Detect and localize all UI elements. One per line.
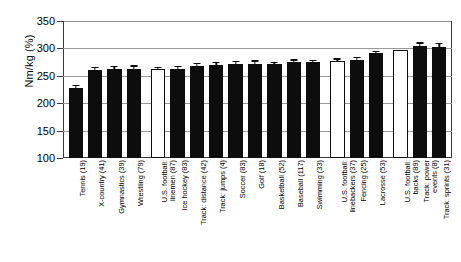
bar — [369, 53, 383, 158]
error-bar-cap — [111, 66, 118, 67]
bar-column — [267, 21, 281, 158]
y-axis-tick-label: 300 — [37, 42, 55, 54]
x-axis-tick-label-line: U.S. football: — [340, 160, 349, 202]
x-axis-tick-label: Tennis (19) — [79, 160, 87, 256]
bar-series — [63, 21, 452, 158]
y-axis-tick-label: 150 — [37, 125, 55, 137]
error-bar-cap — [213, 62, 220, 63]
bar — [330, 61, 344, 158]
y-axis-tick-label: 250 — [37, 70, 55, 82]
x-axis-tick-label: Basketball (52) — [278, 160, 286, 256]
x-axis-tick-label: Track: jumps (4) — [219, 160, 227, 256]
bar-column — [248, 21, 262, 158]
x-axis-tick-label: Track: powerevents (8) — [423, 160, 440, 256]
bar-column — [228, 21, 242, 158]
bar — [127, 69, 141, 158]
bar — [107, 69, 121, 158]
bar-column — [127, 21, 141, 158]
bar-column — [306, 21, 320, 158]
x-axis-tick-label-line: Track: distance (42) — [199, 160, 208, 225]
x-axis-tick-label-line: Track: sprints (31) — [442, 160, 451, 219]
x-axis-tick-label: Track: distance (42) — [200, 160, 208, 256]
bar-column — [190, 21, 204, 158]
x-axis-tick-label: U.S. football:linebackers (37) — [341, 160, 358, 256]
error-bar-cap — [155, 67, 162, 68]
chart-figure: Nm/kg (%) 100150200250300350 Tennis (19)… — [0, 0, 461, 262]
x-axis-tick-label-line: Fencing (25) — [359, 160, 368, 202]
bar — [209, 65, 223, 158]
bar-column — [69, 21, 83, 158]
x-axis-tick-label-line: Soccer (83) — [238, 160, 247, 198]
bar-column — [88, 21, 102, 158]
x-axis-tick-label: Swimming (33) — [316, 160, 324, 256]
error-bar-cap — [72, 85, 79, 86]
bar — [69, 88, 83, 158]
x-axis-tick-label-line: Ice hockey (83) — [180, 160, 189, 211]
x-axis-tick-label-line: Wrestling (79) — [136, 160, 145, 206]
bar — [413, 46, 427, 158]
x-axis-tick-label: Golf (18) — [258, 160, 266, 256]
bar — [88, 70, 102, 158]
x-axis-tick-label-line: U.S. football: — [403, 160, 412, 202]
error-bar-cap — [232, 61, 239, 62]
error-bar-cap — [373, 51, 380, 52]
x-axis-tick-label: U.S. football:linemen (87) — [161, 160, 178, 256]
x-axis-tick-label: Soccer (83) — [239, 160, 247, 256]
error-bar-cap — [92, 67, 99, 68]
error-bar-cap — [290, 59, 297, 60]
error-bar-cap — [251, 60, 258, 61]
bar-column — [170, 21, 184, 158]
x-axis-tick-label-line: events (8) — [432, 160, 440, 256]
error-bar-cap — [353, 57, 360, 58]
bar-column — [151, 21, 165, 158]
bar-column — [393, 21, 407, 158]
bar — [248, 64, 262, 158]
plot-area: 100150200250300350 — [63, 21, 452, 158]
x-axis-tick-label-line: X-country (41) — [97, 160, 106, 207]
error-bar-cap — [334, 58, 341, 59]
x-axis-tick-label: Gymnastics (39) — [118, 160, 126, 256]
bar — [306, 62, 320, 158]
error-bar-cap — [271, 62, 278, 63]
bar-column — [330, 21, 344, 158]
x-axis-tick-label: U.S. football:backs (89) — [404, 160, 421, 256]
x-axis-tick-label-line: Basketball (52) — [277, 160, 286, 209]
bar — [267, 64, 281, 158]
x-axis-tick-label: Fencing (25) — [360, 160, 368, 256]
error-bar-cap — [310, 60, 317, 61]
x-axis-tick-label-line: Baseball (117) — [296, 160, 305, 207]
bar-column — [369, 21, 383, 158]
bar-column — [413, 21, 427, 158]
x-axis-tick-label: Lacrosse (53) — [379, 160, 387, 256]
x-axis-tick-label-line: linebackers (37) — [349, 160, 357, 256]
x-axis-tick-label-line: Golf (18) — [257, 160, 266, 189]
x-axis-labels: Tennis (19)X-country (41)Gymnastics (39)… — [63, 160, 452, 260]
x-axis-tick-label-line: Tennis (19) — [78, 160, 87, 197]
x-axis-tick-label-line: Track: jumps (4) — [218, 160, 227, 213]
bar-column — [432, 21, 446, 158]
bar — [287, 62, 301, 158]
x-axis-tick-label-line: Swimming (33) — [315, 160, 324, 209]
bar — [350, 60, 364, 158]
y-axis-tick-label: 350 — [37, 15, 55, 27]
x-axis-tick-label-line: linemen (87) — [170, 160, 178, 256]
error-bar-cap — [436, 43, 443, 44]
x-axis-tick-label: Track: sprints (31) — [443, 160, 451, 256]
bar — [190, 66, 204, 158]
x-axis-tick-label-line: Gymnastics (39) — [117, 160, 126, 214]
x-axis-tick-label: Wrestling (79) — [137, 160, 145, 256]
error-bar-cap — [174, 66, 181, 67]
y-axis-tick-label: 200 — [37, 97, 55, 109]
bar — [393, 50, 407, 158]
x-axis-tick-label: Ice hockey (83) — [181, 160, 189, 256]
y-axis-tick-label: 100 — [37, 152, 55, 164]
error-bar-cap — [130, 65, 137, 66]
error-bar-cap — [193, 63, 200, 64]
y-axis-tick — [57, 158, 63, 159]
x-axis-tick-label: X-country (41) — [98, 160, 106, 256]
bar-column — [209, 21, 223, 158]
bar-column — [350, 21, 364, 158]
bar — [432, 47, 446, 158]
bar — [151, 69, 165, 158]
bar-column — [107, 21, 121, 158]
